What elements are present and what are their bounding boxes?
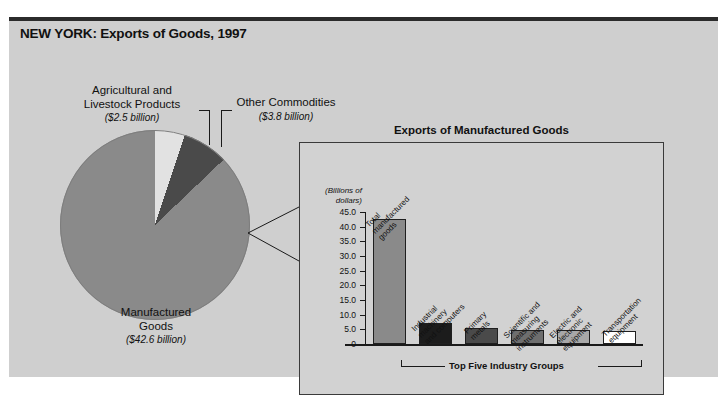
figure-title: NEW YORK: Exports of Goods, 1997 xyxy=(20,26,247,41)
pie-label-agricultural-line2: Livestock Products xyxy=(84,98,181,110)
leader-other-horizontal xyxy=(221,110,232,111)
y-tick-label: 35.0 xyxy=(316,236,356,246)
y-tick-label: 0 xyxy=(316,339,356,349)
title-rule xyxy=(9,17,718,21)
y-axis-caption: (Billions of dollars) xyxy=(306,186,362,205)
y-tick-label: 25.0 xyxy=(316,266,356,276)
bracket-right-arm xyxy=(598,366,642,367)
inset-title: Exports of Manufactured Goods xyxy=(299,124,664,136)
y-axis-caption-line1: (Billions of xyxy=(325,186,362,195)
pie-label-agricultural-amount: ($2.5 billion) xyxy=(57,111,207,125)
y-tick-label: 20.0 xyxy=(316,280,356,290)
y-tick xyxy=(360,344,366,345)
pie-label-manufactured: Manufactured Goods ($42.6 billion) xyxy=(86,306,226,347)
bar-series xyxy=(366,212,642,344)
y-tick-label: 40.0 xyxy=(316,222,356,232)
pie-label-agricultural: Agricultural and Livestock Products ($2.… xyxy=(57,84,207,125)
bracket-left-arm xyxy=(401,366,445,367)
y-tick-label: 30.0 xyxy=(316,251,356,261)
pie-label-manufactured-amount: ($42.6 billion) xyxy=(86,333,226,347)
x-axis-line xyxy=(345,344,643,346)
pie-label-other-commodities-text: Other Commodities xyxy=(236,96,335,108)
bracket-right-tip xyxy=(641,360,642,367)
leader-other-vertical xyxy=(221,110,222,147)
bracket-label: Top Five Industry Groups xyxy=(449,360,564,371)
leader-agricultural-vertical xyxy=(209,110,210,145)
pie-label-other-commodities-amount: ($3.8 billion) xyxy=(216,110,356,124)
pie-label-manufactured-line2: Goods xyxy=(139,320,173,332)
y-tick-label: 45.0 xyxy=(316,207,356,217)
y-tick-label: 15.0 xyxy=(316,295,356,305)
pie-label-manufactured-line1: Manufactured xyxy=(121,306,191,318)
pie-chart xyxy=(60,130,250,320)
pie-label-other-commodities: Other Commodities ($3.8 billion) xyxy=(216,96,356,123)
y-tick-label: 10.0 xyxy=(316,310,356,320)
pie-outline xyxy=(60,130,250,320)
y-tick-label: 5.0 xyxy=(316,324,356,334)
y-axis-caption-line2: dollars) xyxy=(336,196,362,205)
callout-connector xyxy=(240,205,302,267)
pie-label-agricultural-line1: Agricultural and xyxy=(92,84,172,96)
figure-exports-of-goods: NEW YORK: Exports of Goods, 1997 Agricul… xyxy=(0,0,727,419)
